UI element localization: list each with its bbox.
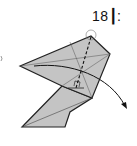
origami-diagram	[0, 0, 137, 146]
edge-mark	[1, 56, 2, 61]
